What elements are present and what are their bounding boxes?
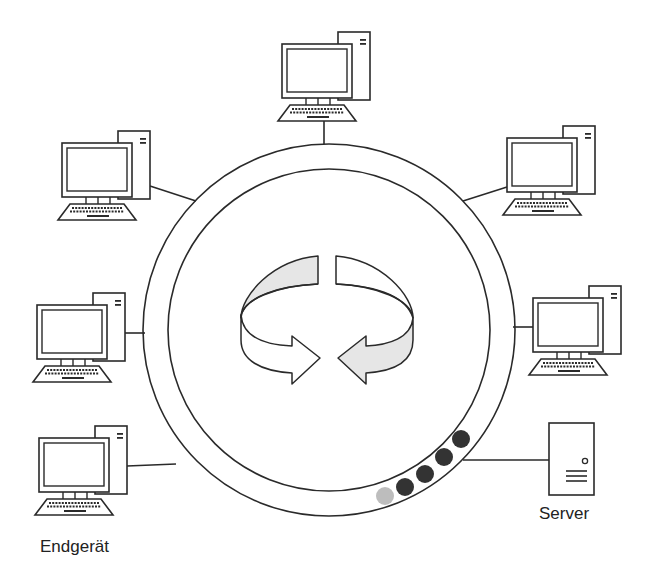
endgeraet-label: Endgerät xyxy=(40,537,109,557)
diagram-graphic xyxy=(0,0,653,580)
token-ring-diagram: Endgerät Server xyxy=(0,0,653,580)
token-dark xyxy=(396,478,414,496)
server-icon xyxy=(549,423,594,495)
token-dark xyxy=(435,448,453,466)
network-ring xyxy=(143,144,515,516)
token-packets xyxy=(376,430,470,505)
token-dark xyxy=(452,430,470,448)
workstation-top xyxy=(278,32,370,121)
workstation-upper-right xyxy=(503,126,595,215)
workstation-lower-left xyxy=(35,426,127,515)
workstation-middle-left xyxy=(33,293,125,382)
workstation-upper-left xyxy=(58,131,150,220)
server-label: Server xyxy=(539,504,589,524)
token-light xyxy=(376,487,394,505)
workstation-middle-right xyxy=(529,286,621,375)
token-dark xyxy=(416,465,434,483)
rotation-arrows-icon xyxy=(241,256,413,384)
